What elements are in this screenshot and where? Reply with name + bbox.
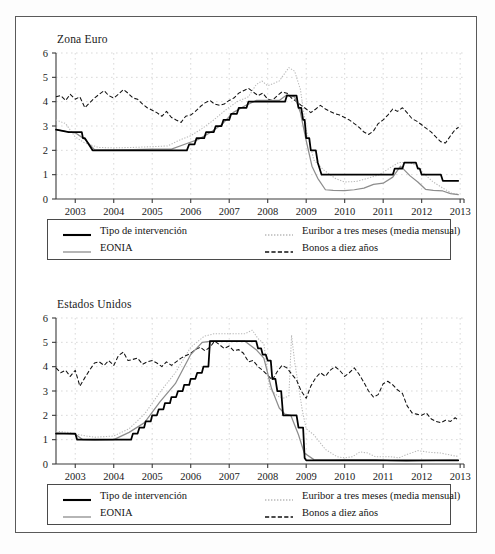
svg-text:6: 6 [43, 313, 48, 324]
legend-zona-euro: Tipo de intervención Euribor a tres mese… [47, 219, 451, 260]
legend-swatch-solid-gray-icon [62, 508, 92, 518]
legend-item-euribor: Euribor a tres meses (media mensual) [258, 491, 460, 502]
series-euribor-a-tres-meses-media-mensual [56, 68, 458, 195]
legend-label-euribor: Euribor a tres meses (media mensual) [302, 491, 460, 502]
svg-text:2005: 2005 [142, 471, 163, 482]
chart-svg-zona-euro: 0123456200320042005200620072008200920102… [16, 47, 478, 227]
legend-label-eonia: EONIA [100, 243, 133, 254]
panel-estados-unidos: Estados Unidos 0123456200320042005200620… [16, 282, 478, 532]
svg-text:2012: 2012 [411, 471, 432, 482]
legend-swatch-solid-black-icon [62, 491, 92, 501]
plot-area-estados-unidos: 0123456200320042005200620072008200920102… [16, 312, 478, 492]
legend-swatch-solid-black-icon [62, 226, 92, 236]
legend-label-bonos: Bonos a diez años [302, 508, 378, 519]
chart-svg-estados-unidos: 0123456200320042005200620072008200920102… [16, 312, 478, 492]
svg-text:2003: 2003 [65, 206, 86, 217]
svg-text:4: 4 [43, 361, 49, 372]
chart-title-zona-euro: Zona Euro [57, 33, 108, 45]
svg-text:3: 3 [43, 386, 48, 397]
figure-page: Zona Euro 012345620032004200520062007200… [0, 0, 495, 554]
svg-text:2013: 2013 [450, 471, 471, 482]
svg-text:2008: 2008 [257, 471, 278, 482]
svg-text:2008: 2008 [257, 206, 278, 217]
legend-swatch-dashed-black-icon [264, 243, 294, 253]
legend-label-tipo-intervencion: Tipo de intervención [100, 491, 187, 502]
svg-text:2007: 2007 [219, 471, 240, 482]
svg-text:2: 2 [43, 145, 48, 156]
legend-swatch-dashed-black-icon [264, 508, 294, 518]
svg-text:3: 3 [43, 121, 48, 132]
svg-text:0: 0 [43, 459, 48, 470]
figure-frame: Zona Euro 012345620032004200520062007200… [15, 16, 477, 533]
svg-text:2004: 2004 [103, 206, 125, 217]
svg-text:2003: 2003 [65, 471, 86, 482]
chart-title-estados-unidos: Estados Unidos [57, 298, 132, 310]
svg-text:2004: 2004 [103, 471, 125, 482]
svg-text:2010: 2010 [334, 206, 355, 217]
legend-label-tipo-intervencion: Tipo de intervención [100, 226, 187, 237]
svg-text:2006: 2006 [180, 206, 201, 217]
series-tipo-de-intervenci-n [56, 96, 458, 181]
legend-item-tipo-intervencion: Tipo de intervención [48, 226, 258, 237]
svg-text:2011: 2011 [373, 471, 394, 482]
legend-item-euribor: Euribor a tres meses (media mensual) [258, 226, 460, 237]
svg-text:6: 6 [43, 48, 48, 59]
svg-text:2005: 2005 [142, 206, 163, 217]
legend-label-eonia: EONIA [100, 508, 133, 519]
legend-item-eonia: EONIA [48, 508, 258, 519]
svg-text:1: 1 [43, 169, 48, 180]
svg-text:4: 4 [43, 96, 49, 107]
svg-text:2009: 2009 [296, 471, 317, 482]
plot-area-zona-euro: 0123456200320042005200620072008200920102… [16, 47, 478, 227]
svg-text:2009: 2009 [296, 206, 317, 217]
svg-text:5: 5 [43, 337, 48, 348]
series-eonia [56, 95, 458, 195]
series-bonos-a-diez-a-os [56, 88, 459, 143]
legend-swatch-solid-gray-icon [62, 243, 92, 253]
svg-text:2: 2 [43, 410, 48, 421]
svg-text:5: 5 [43, 72, 48, 83]
panel-zona-euro: Zona Euro 012345620032004200520062007200… [16, 17, 478, 267]
legend-swatch-dotted-gray-icon [264, 491, 294, 501]
legend-item-bonos: Bonos a diez años [258, 508, 460, 519]
series-bonos-a-diez-a-os [56, 341, 459, 423]
svg-text:2011: 2011 [373, 206, 394, 217]
legend-label-bonos: Bonos a diez años [302, 243, 378, 254]
legend-item-bonos: Bonos a diez años [258, 243, 460, 254]
legend-swatch-dotted-gray-icon [264, 226, 294, 236]
svg-text:0: 0 [43, 194, 48, 205]
svg-text:2010: 2010 [334, 471, 355, 482]
legend-label-euribor: Euribor a tres meses (media mensual) [302, 226, 460, 237]
svg-text:2013: 2013 [450, 206, 471, 217]
legend-item-eonia: EONIA [48, 243, 258, 254]
svg-text:2012: 2012 [411, 206, 432, 217]
svg-text:2007: 2007 [219, 206, 240, 217]
legend-estados-unidos: Tipo de intervención Euribor a tres mese… [47, 484, 451, 525]
svg-text:2006: 2006 [180, 471, 201, 482]
legend-item-tipo-intervencion: Tipo de intervención [48, 491, 258, 502]
svg-text:1: 1 [43, 434, 48, 445]
